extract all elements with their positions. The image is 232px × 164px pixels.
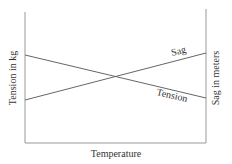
tension-sag-chart: Sag Tension Temperature Tension in kg Sa…: [0, 0, 232, 164]
left-y-axis-title: Tension in kg: [7, 51, 18, 105]
sag-label: Sag: [170, 44, 187, 58]
chart-canvas: Sag Tension Temperature Tension in kg Sa…: [0, 0, 232, 164]
right-y-axis-title: Sag in meters: [210, 51, 221, 106]
x-axis-title: Temperature: [91, 148, 142, 159]
tension-label: Tension: [156, 86, 189, 104]
